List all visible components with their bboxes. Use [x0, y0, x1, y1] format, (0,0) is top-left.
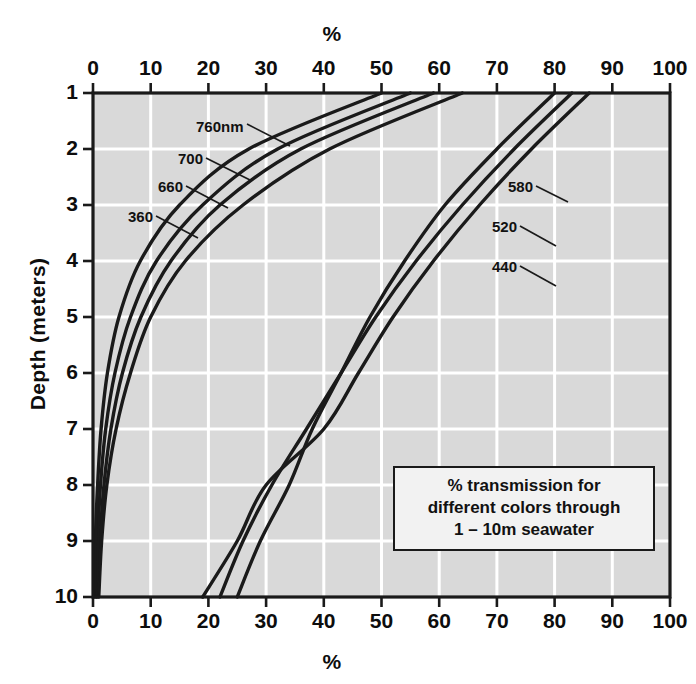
- curve-label-700: 700: [178, 150, 203, 167]
- curve-label-580: 580: [508, 178, 533, 195]
- curve-label-440: 440: [492, 258, 517, 275]
- legend-line-1: % transmission for: [399, 475, 649, 497]
- plot-area: [0, 0, 696, 684]
- legend-line-3: 1 – 10m seawater: [399, 519, 649, 541]
- curve-label-520: 520: [492, 218, 517, 235]
- legend-line-2: different colors through: [399, 497, 649, 519]
- legend-box: % transmission for different colors thro…: [393, 466, 655, 551]
- curve-label-360: 360: [128, 208, 153, 225]
- transmission-chart-figure: % % Depth (meters) 010203040506070809010…: [0, 0, 696, 684]
- curve-label-760nm: 760nm: [196, 118, 244, 135]
- curve-label-660: 660: [158, 178, 183, 195]
